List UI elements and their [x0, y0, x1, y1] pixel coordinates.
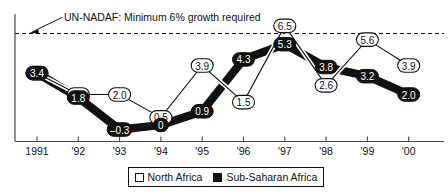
north-africa-value-label: 3.9: [195, 61, 209, 72]
x-axis-tick-label: '00: [402, 145, 416, 157]
sub-saharan-africa-value-label: 4.3: [237, 54, 251, 65]
sub-saharan-africa-value-label: 3.2: [360, 71, 374, 82]
north-africa-value-label: 2.0: [113, 90, 127, 101]
sub-saharan-africa-value-label: 0: [158, 120, 164, 131]
north-africa-value-label: 2.6: [319, 80, 333, 91]
x-axis-ticks: [37, 137, 409, 142]
sub-saharan-africa-value-label: 1.8: [71, 93, 85, 104]
annotation-leader: [31, 18, 63, 34]
x-axis-tick-label: '93: [113, 145, 127, 157]
legend-label-sub-saharan-africa: Sub-Saharan Africa: [226, 171, 317, 183]
north-africa-value-label: 1.5: [237, 97, 251, 108]
legend-label-north-africa: North Africa: [148, 171, 203, 183]
x-axis-tick-labels: 1991'92'93'94'95'96'97'98'99'00: [25, 145, 415, 157]
sub-saharan-africa-value-label: 3.4: [30, 68, 44, 79]
chart-plot-area: UN-NADAF: Minimum 6% growth required 199…: [0, 0, 448, 193]
growth-rate-line-chart: UN-NADAF: Minimum 6% growth required 199…: [0, 0, 448, 193]
sub-saharan-africa-value-label: 0.9: [195, 106, 209, 117]
open-square-icon: [135, 173, 144, 182]
legend-entry-north-africa: North Africa: [135, 171, 203, 183]
x-axis-tick-label: '99: [361, 145, 375, 157]
annotation-label: UN-NADAF: Minimum 6% growth required: [64, 11, 261, 23]
x-axis-tick-label: 1991: [25, 145, 49, 157]
north-africa-value-label: 5.6: [360, 35, 374, 46]
sub-saharan-africa-value-label: 3.8: [319, 62, 333, 73]
north-africa-value-label: 3.9: [402, 61, 416, 72]
x-axis-tick-label: '95: [195, 145, 209, 157]
sub-saharan-africa-value-label: 5.3: [278, 39, 292, 50]
chart-legend: North Africa Sub-Saharan Africa: [128, 167, 324, 187]
x-axis-tick-label: '92: [71, 145, 85, 157]
north-africa-value-label: 6.5: [278, 21, 292, 32]
x-axis-tick-label: '94: [154, 145, 168, 157]
x-axis-tick-label: '97: [278, 145, 292, 157]
annotation-arrow-icon: [31, 29, 39, 33]
x-axis-tick-label: '98: [319, 145, 333, 157]
legend-entry-sub-saharan-africa: Sub-Saharan Africa: [213, 171, 317, 183]
sub-saharan-africa-value-label: 2.0: [402, 90, 416, 101]
x-axis-tick-label: '96: [237, 145, 251, 157]
sub-saharan-africa-value-label: –0.3: [110, 125, 130, 136]
filled-square-icon: [213, 173, 222, 182]
